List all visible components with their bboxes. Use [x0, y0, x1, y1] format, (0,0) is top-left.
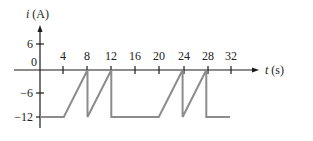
svg-text:28: 28 [202, 49, 214, 63]
svg-text:0: 0 [31, 55, 37, 69]
svg-text:−12: −12 [14, 110, 33, 124]
svg-text:6: 6 [27, 37, 33, 51]
y-axis-arrow-icon [38, 25, 43, 32]
x-axis-label: t(s) [265, 63, 284, 77]
current-waveform [40, 70, 230, 117]
svg-text:12: 12 [105, 49, 117, 63]
svg-text:24: 24 [178, 49, 190, 63]
x-axis-arrow-icon [252, 68, 259, 73]
chart: 4 8 12 16 20 24 28 32 6 0 −6 −12 i(A) t(… [0, 0, 313, 141]
y-tick-labels: 6 0 −6 −12 [14, 37, 37, 124]
svg-text:8: 8 [84, 49, 90, 63]
svg-text:32: 32 [225, 49, 237, 63]
svg-text:4: 4 [60, 49, 66, 63]
y-axis-label: i(A) [26, 7, 49, 21]
svg-text:16: 16 [129, 49, 141, 63]
svg-text:20: 20 [153, 49, 165, 63]
svg-text:−6: −6 [20, 86, 33, 100]
x-tick-labels: 4 8 12 16 20 24 28 32 [60, 49, 237, 63]
